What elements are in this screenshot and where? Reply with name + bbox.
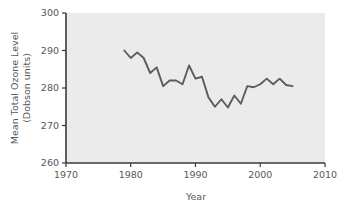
y-tick-label: 290 <box>41 45 59 56</box>
y-axis-title-line1: Mean Total Ozone Level <box>9 32 20 144</box>
x-tick-label: 1990 <box>183 169 207 180</box>
x-tick-label: 2000 <box>248 169 272 180</box>
y-axis-tick-labels: 260270280290300 <box>41 7 59 168</box>
plot-background <box>66 13 325 163</box>
y-tick-label: 270 <box>41 120 59 131</box>
x-axis-tick-labels: 19701980199020002010 <box>54 169 337 180</box>
chart-canvas: 260270280290300 19701980199020002010 Yea… <box>0 0 338 209</box>
x-tick-label: 1980 <box>119 169 143 180</box>
x-tick-label: 2010 <box>313 169 337 180</box>
ozone-line-chart: 260270280290300 19701980199020002010 Yea… <box>0 0 338 209</box>
y-tick-label: 280 <box>41 82 59 93</box>
y-tick-label: 260 <box>41 157 59 168</box>
y-tick-label: 300 <box>41 7 59 18</box>
x-axis-title: Year <box>185 191 206 202</box>
x-tick-label: 1970 <box>54 169 78 180</box>
y-axis-title-line2: (Dobson units) <box>21 53 32 123</box>
